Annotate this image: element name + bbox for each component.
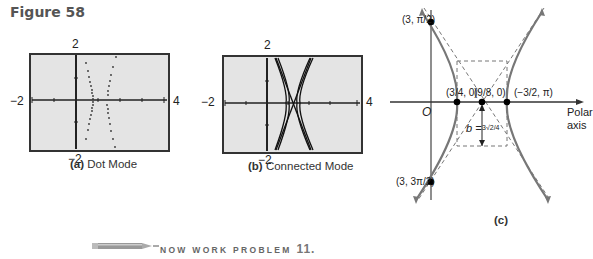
panel-b-caption: (b) Connected Mode [248,160,353,172]
origin-label: O [422,105,431,119]
footer-text: NOW WORK PROBLEM [160,245,292,255]
point-label-9-8-0: (9/8, 0) [474,87,506,98]
figure-title: Figure 58 [10,4,85,20]
pencil-icon [92,241,160,251]
panel-b-x-min-label: −2 [201,95,215,109]
polar-axis-label-line1: Polar [567,106,593,118]
panel-a-plot [29,53,170,152]
panel-a-caption-letter: (a) [70,158,84,170]
panel-a-x-min-label: −2 [10,94,24,108]
polar-axis-label-line2: axis [567,119,587,131]
panel-b-plot [222,55,363,154]
now-work-problem: NOW WORK PROBLEM 11. [160,242,315,256]
panel-c-caption: (c) [494,214,508,226]
panel-b-x-max-label: 4 [366,95,373,109]
problem-number: 11. [296,242,315,256]
panel-a-caption-text: Dot Mode [87,158,137,170]
point-label-neg-3-2-pi: (−3/2, π) [514,87,553,98]
panel-a-caption: (a) Dot Mode [70,158,137,170]
panel-b-y-max-label: 2 [264,38,271,52]
point-label-3-3pi-over-2: (3, 3π/2) [396,176,435,187]
panel-a-x-max-label: 4 [173,94,180,108]
b-value: 3√2/4 [482,124,499,131]
panel-b-caption-letter: (b) [248,160,263,172]
point-label-3-pi-over-2: (3, π/2) [402,14,435,25]
panel-a-y-max-label: 2 [72,37,79,51]
point-label-3-4-0: (3/4, 0) [446,87,478,98]
b-label: b = [466,122,482,134]
panel-b-caption-text: Connected Mode [266,160,354,172]
